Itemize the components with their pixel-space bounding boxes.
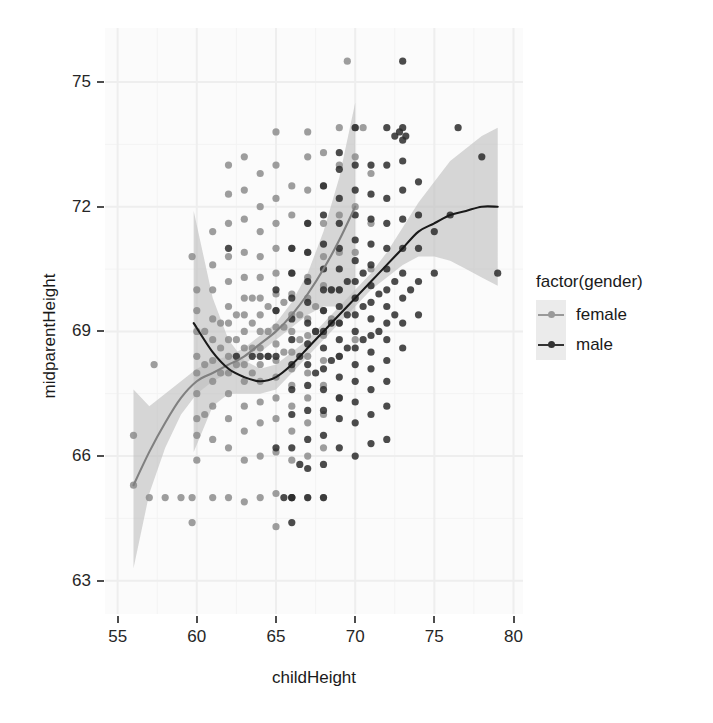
data-point: [304, 249, 311, 256]
data-point: [375, 328, 382, 335]
data-point: [367, 170, 374, 177]
data-point: [383, 245, 390, 252]
data-point: [304, 353, 311, 360]
data-point: [304, 419, 311, 426]
data-point: [241, 344, 248, 351]
data-point: [367, 241, 374, 248]
data-point: [360, 336, 367, 343]
data-point: [288, 182, 295, 189]
data-point: [399, 344, 406, 351]
data-point: [367, 332, 374, 339]
legend-key-point: [548, 311, 555, 318]
data-point: [336, 265, 343, 272]
data-point: [257, 494, 264, 501]
data-point: [304, 128, 311, 135]
data-point: [249, 320, 256, 327]
data-point: [304, 369, 311, 376]
data-point: [383, 220, 390, 227]
data-point: [193, 415, 200, 422]
data-point: [225, 444, 232, 451]
data-point: [352, 124, 359, 131]
data-point: [280, 494, 287, 501]
data-point: [375, 290, 382, 297]
data-point: [189, 253, 196, 260]
data-point: [209, 357, 216, 364]
data-point: [249, 353, 256, 360]
data-point: [280, 299, 287, 306]
y-tick-mark: [97, 580, 104, 582]
data-point: [415, 211, 422, 218]
data-point: [304, 494, 311, 501]
data-point: [320, 432, 327, 439]
data-point: [304, 278, 311, 285]
data-point: [288, 270, 295, 277]
data-point: [225, 336, 232, 343]
x-tick-label: 70: [325, 628, 385, 645]
legend-item-male[interactable]: male: [536, 330, 711, 360]
data-point: [383, 162, 390, 169]
data-point: [257, 274, 264, 281]
y-tick-label: 69: [51, 322, 91, 339]
data-point: [217, 320, 224, 327]
data-point: [352, 153, 359, 160]
data-point: [241, 295, 248, 302]
data-point: [383, 403, 390, 410]
x-tick-label: 55: [88, 628, 148, 645]
data-point: [415, 311, 422, 318]
y-tick-mark: [97, 455, 104, 457]
data-point: [288, 211, 295, 218]
data-point: [304, 220, 311, 227]
data-point: [225, 353, 232, 360]
y-tick-label: 72: [51, 198, 91, 215]
data-point: [352, 311, 359, 318]
legend-item-female[interactable]: female: [536, 300, 711, 330]
data-point: [352, 336, 359, 343]
data-point: [352, 278, 359, 285]
data-point: [320, 211, 327, 218]
data-point: [257, 253, 264, 260]
data-point: [304, 153, 311, 160]
data-point: [201, 411, 208, 418]
data-point: [209, 403, 216, 410]
data-point: [336, 211, 343, 218]
data-point: [352, 162, 359, 169]
data-point: [209, 228, 216, 235]
data-point: [320, 386, 327, 393]
data-point: [257, 398, 264, 405]
data-point: [241, 274, 248, 281]
data-point: [320, 357, 327, 364]
data-point: [304, 407, 311, 414]
y-tick-label: 75: [51, 73, 91, 90]
data-point: [336, 195, 343, 202]
data-point: [130, 432, 137, 439]
data-point: [304, 187, 311, 194]
data-point: [288, 494, 295, 501]
data-point: [367, 440, 374, 447]
data-point: [217, 344, 224, 351]
data-point: [396, 128, 403, 135]
data-point: [249, 295, 256, 302]
data-point: [399, 295, 406, 302]
data-point: [320, 461, 327, 468]
data-point: [233, 336, 240, 343]
data-point: [257, 328, 264, 335]
data-point: [241, 457, 248, 464]
data-point: [383, 124, 390, 131]
data-point: [225, 191, 232, 198]
data-point: [193, 307, 200, 314]
data-point: [336, 149, 343, 156]
data-point: [189, 494, 196, 501]
data-point: [272, 245, 279, 252]
data-point: [241, 311, 248, 318]
data-point: [225, 253, 232, 260]
data-point: [336, 336, 343, 343]
data-point: [288, 519, 295, 526]
data-point: [257, 361, 264, 368]
data-point: [344, 311, 351, 318]
data-point: [415, 178, 422, 185]
data-point: [383, 195, 390, 202]
y-tick-mark: [97, 81, 104, 83]
data-point: [336, 415, 343, 422]
data-point: [304, 436, 311, 443]
data-point: [360, 124, 367, 131]
